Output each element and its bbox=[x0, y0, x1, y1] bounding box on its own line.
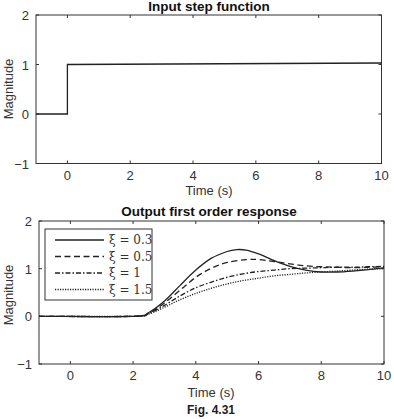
x-axis-label: Time (s) bbox=[185, 183, 232, 198]
y-tick-label: −1 bbox=[17, 357, 32, 372]
output-response-chart: Output first order response 0246810−1012… bbox=[1, 204, 391, 400]
y-tick-label: 2 bbox=[22, 8, 29, 23]
y-tick-label: 2 bbox=[25, 214, 32, 229]
chart-title: Output first order response bbox=[121, 204, 297, 219]
x-tick-label: 10 bbox=[374, 168, 388, 183]
chart-title: Input step function bbox=[148, 0, 269, 14]
legend: ξ = 0.3ξ = 0.5ξ = 1ξ = 1.5 bbox=[45, 229, 152, 300]
x-tick-label: 4 bbox=[189, 168, 196, 183]
x-tick-label: 4 bbox=[192, 368, 199, 383]
y-tick-label: −1 bbox=[14, 157, 29, 172]
x-tick-label: 0 bbox=[67, 368, 74, 383]
y-tick-label: 0 bbox=[25, 309, 32, 324]
legend-label: ξ = 0.3 bbox=[109, 233, 152, 247]
y-tick-label: 1 bbox=[22, 58, 29, 73]
plot-area bbox=[36, 15, 382, 164]
x-axis-label: Time (s) bbox=[187, 385, 234, 400]
x-tick-label: 8 bbox=[318, 368, 325, 383]
x-tick-label: 2 bbox=[127, 168, 134, 183]
y-axis-label: Magnitude bbox=[1, 265, 16, 326]
x-tick-label: 10 bbox=[377, 368, 391, 383]
y-tick-label: 0 bbox=[22, 107, 29, 122]
figure-caption: Fig. 4.31 bbox=[187, 403, 235, 417]
series-group bbox=[36, 63, 382, 114]
axis-ticks: 0246810−1012 bbox=[14, 8, 389, 183]
y-axis-label: Magnitude bbox=[1, 59, 16, 120]
figure: Input step function 0246810−1012 Time (s… bbox=[0, 0, 394, 419]
series-line bbox=[36, 63, 382, 114]
x-tick-label: 0 bbox=[64, 168, 71, 183]
x-tick-label: 6 bbox=[252, 168, 259, 183]
x-tick-label: 8 bbox=[315, 168, 322, 183]
input-step-chart: Input step function 0246810−1012 Time (s… bbox=[1, 0, 389, 198]
y-tick-label: 1 bbox=[25, 262, 32, 277]
legend-label: ξ = 1.5 bbox=[109, 283, 152, 297]
legend-label: ξ = 1 bbox=[109, 266, 141, 280]
x-tick-label: 6 bbox=[255, 368, 262, 383]
x-tick-label: 2 bbox=[129, 368, 136, 383]
legend-label: ξ = 0.5 bbox=[109, 250, 152, 264]
